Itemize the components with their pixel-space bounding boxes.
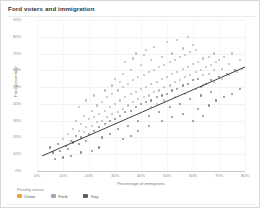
y-axis-title: Ford percentage	[13, 52, 18, 112]
bottom-divider	[7, 204, 255, 205]
legend-label: Tory	[90, 194, 98, 199]
legend-items: ChowFordTory	[17, 194, 99, 199]
gridline-vertical	[245, 20, 246, 171]
legend-item[interactable]: Ford	[51, 194, 67, 199]
x-axis-tick-label: 10%	[51, 174, 75, 178]
legend-item[interactable]: Tory	[83, 194, 98, 199]
title-divider	[7, 16, 255, 17]
legend-swatch	[17, 194, 22, 199]
y-axis-tick-label: 30%	[1, 119, 21, 123]
legend-swatch	[83, 194, 88, 199]
x-axis-line	[37, 171, 245, 172]
x-axis-title: Percentage of immigrants	[37, 181, 245, 186]
x-axis-tick-label: 70%	[207, 174, 231, 178]
y-axis-tick-label: 60%	[1, 68, 21, 72]
legend-title: Plurality winner	[17, 187, 99, 192]
legend-label: Ford	[58, 194, 67, 199]
y-axis-tick-label: 50%	[1, 85, 21, 89]
trend-line	[37, 20, 245, 171]
x-axis-tick-label: 40%	[129, 174, 153, 178]
chart-card: Ford voters and immigration 0%10%20%30%4…	[0, 0, 260, 208]
y-axis-tick-label: 10%	[1, 152, 21, 156]
y-axis-tick-label: 90%	[1, 18, 21, 22]
legend-item[interactable]: Chow	[17, 194, 35, 199]
x-axis-tick-label: 20%	[77, 174, 101, 178]
legend: Plurality winner ChowFordTory	[17, 187, 99, 199]
plot-area	[37, 20, 245, 171]
y-axis-tick-label: 20%	[1, 135, 21, 139]
x-axis-tick-label: 50%	[155, 174, 179, 178]
x-axis-tick-label: 60%	[181, 174, 205, 178]
x-axis-tick-label: 0%	[25, 174, 49, 178]
legend-label: Chow	[24, 194, 35, 199]
y-axis-tick-label: 80%	[1, 35, 21, 39]
legend-swatch	[51, 194, 56, 199]
page-title: Ford voters and immigration	[8, 5, 95, 12]
y-axis-tick-label: 40%	[1, 102, 21, 106]
x-axis-tick-label: 30%	[103, 174, 127, 178]
y-axis-tick-label: 0%	[1, 169, 21, 173]
x-axis-tick-label: 80%	[233, 174, 257, 178]
y-axis-tick-label: 70%	[1, 52, 21, 56]
